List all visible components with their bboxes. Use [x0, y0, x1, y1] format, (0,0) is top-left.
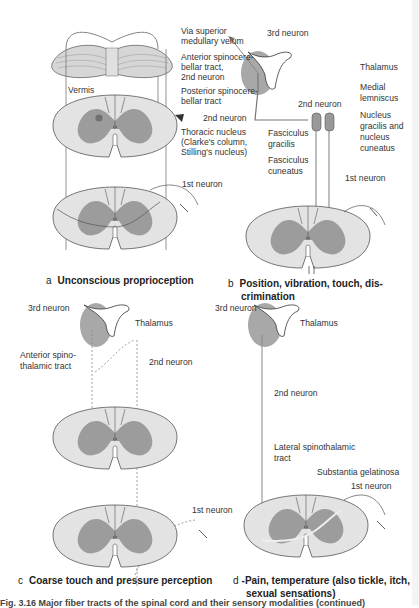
- label-thoracic-3: Stilling's nucleus): [181, 147, 247, 158]
- label-fasciculus-gracilis-1: Fasciculus: [268, 128, 309, 139]
- label-lateral-spinothalamic-1: Lateral spinothalamic: [274, 442, 355, 453]
- label-b-3rd-neuron: 3rd neuron: [267, 28, 309, 39]
- label-medial-2: lemniscus: [360, 93, 398, 104]
- caption-b-line-1: bPosition, vibration, touch, dis-: [228, 278, 383, 290]
- panel-c-upper-cord: [53, 407, 177, 469]
- label-vermis: Vermis: [68, 85, 94, 96]
- caption-b-line-2: crimination: [241, 291, 295, 303]
- label-d-3rd-neuron: 3rd neuron: [215, 303, 257, 314]
- label-posterior-spinocerebellar-1: Posterior spinocere-: [181, 86, 258, 97]
- bidirectional-arrow-icon: [309, 266, 314, 274]
- label-via-superior: Via superior: [181, 26, 227, 37]
- caption-d-line-1: d-Pain, temperature (also tickle, itch,: [233, 575, 410, 587]
- page-edge: [412, 0, 419, 605]
- label-fasciculus-cuneatus-2: cuneatus: [268, 166, 303, 177]
- label-nucleus-2: gracilis and: [360, 121, 403, 132]
- panel-b-cord: [246, 206, 370, 268]
- label-thoracic-2: (Clarke's column,: [181, 137, 247, 148]
- label-c-thalamus: Thalamus: [135, 318, 173, 329]
- label-b-2nd-neuron: 2nd neuron: [298, 99, 342, 110]
- arrow-icon: [199, 530, 207, 538]
- label-substantia-gelatinosa: Substantia gelatinosa: [317, 467, 399, 478]
- label-a-2nd-neuron: 2nd neuron: [203, 113, 247, 124]
- panel-c-thalamus: [80, 303, 129, 347]
- label-c-2nd-neuron: 2nd neuron: [149, 357, 193, 368]
- label-lateral-spinothalamic-2: tract: [274, 453, 291, 464]
- label-fasciculus-cuneatus-1: Fasciculus: [268, 155, 309, 166]
- label-anterior-spinocerebellar-1: Anterior spinocere-: [181, 52, 254, 63]
- label-nucleus-3: nucleus: [360, 132, 390, 143]
- label-anterior-spinocerebellar-2: bellar tract,: [181, 62, 224, 73]
- clarkes-column: [95, 114, 102, 121]
- label-posterior-spinocerebellar-2: bellar tract: [181, 96, 221, 107]
- label-b-1st-neuron: 1st neuron: [345, 173, 386, 184]
- label-nucleus-1: Nucleus: [360, 110, 391, 121]
- label-b-thalamus: Thalamus: [360, 62, 398, 73]
- arrow-icon: [377, 521, 385, 529]
- label-d-thalamus: Thalamus: [300, 318, 338, 329]
- label-anterior-spinothalamic-2: thalamic tract: [20, 361, 71, 372]
- label-a-1st-neuron: 1st neuron: [182, 179, 223, 190]
- label-d-2nd-neuron: 2nd neuron: [274, 388, 318, 399]
- label-nucleus-4: cuneatus: [360, 143, 395, 154]
- arrow-icon: [180, 204, 188, 212]
- label-thoracic-1: Thoracic nucleus: [181, 127, 246, 138]
- caption-a: aUnconscious proprioception: [46, 275, 194, 287]
- label-anterior-spinocerebellar-3: 2nd neuron: [181, 72, 225, 83]
- panel-a-cerebellum: [52, 32, 173, 77]
- label-fasciculus-gracilis-2: gracilis: [268, 139, 295, 150]
- label-medial-1: Medial: [360, 82, 385, 93]
- label-d-1st-neuron: 1st neuron: [351, 481, 392, 492]
- panel-c-lower-cord: [53, 505, 177, 567]
- figure-caption: Fig. 3.16 Major fiber tracts of the spin…: [0, 598, 365, 608]
- panel-a-lower-cord: [53, 187, 177, 249]
- caption-c: cCoarse touch and pressure perception: [18, 575, 212, 587]
- label-anterior-spinothalamic-1: Anterior spino-: [20, 350, 76, 361]
- panel-a-thoracic-cord: [53, 95, 177, 157]
- panel-d-cord: [244, 495, 368, 557]
- label-medullary-velum: medullary velum: [181, 36, 244, 47]
- label-c-3rd-neuron: 3rd neuron: [28, 303, 70, 314]
- label-c-1st-neuron: 1st neuron: [192, 505, 233, 516]
